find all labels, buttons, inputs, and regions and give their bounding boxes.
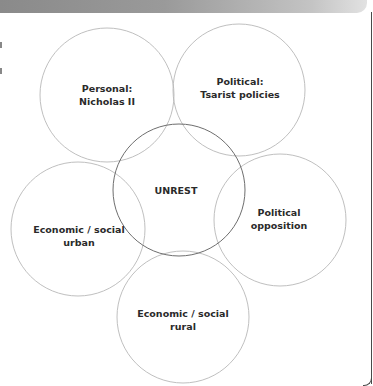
label-economic-urban: Economic / social urban [33, 223, 125, 249]
label-line: Personal: [79, 82, 135, 95]
label-line: Economic / social [33, 223, 125, 236]
label-line: Political [251, 206, 308, 219]
label-economic-rural: Economic / social rural [137, 307, 229, 333]
label-unrest: UNREST [155, 184, 198, 197]
label-line: Nicholas II [79, 95, 135, 108]
label-political-opposition: Political opposition [251, 206, 308, 232]
label-line: urban [33, 236, 125, 249]
label-line: opposition [251, 219, 308, 232]
label-line: Tsarist policies [200, 88, 280, 101]
label-line: Political: [200, 75, 280, 88]
label-personal: Personal: Nicholas II [79, 82, 135, 108]
label-political-tsarist: Political: Tsarist policies [200, 75, 280, 101]
label-line: rural [137, 320, 229, 333]
label-line: Economic / social [137, 307, 229, 320]
